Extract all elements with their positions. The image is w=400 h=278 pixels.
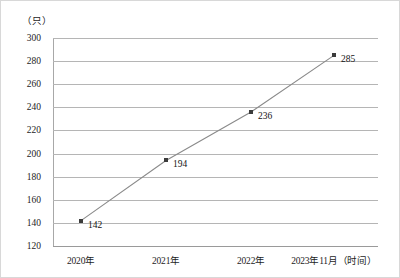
gridline [53, 130, 378, 131]
gridline [53, 246, 378, 247]
y-axis-tick-label: 300 [7, 33, 41, 43]
y-axis-tick-label: 240 [7, 102, 41, 112]
data-point-marker [79, 219, 83, 223]
data-point-label: 142 [88, 220, 102, 230]
y-axis-tick-label: 260 [7, 79, 41, 89]
x-axis-tick-label: 2022年 [237, 253, 265, 267]
gridline [53, 61, 378, 62]
y-axis-tick-label: 120 [7, 241, 41, 251]
gridline [53, 107, 378, 108]
data-point-marker [164, 158, 168, 162]
series-line-svg [1, 1, 400, 278]
gridline [53, 38, 378, 39]
x-axis-tick-label: 2021年 [152, 253, 180, 267]
gridline [53, 84, 378, 85]
data-point-label: 236 [258, 111, 272, 121]
y-axis-tick-label: 140 [7, 218, 41, 228]
data-point-marker [332, 53, 336, 57]
y-axis-tick-label: 280 [7, 56, 41, 66]
y-axis-tick-label: 160 [7, 195, 41, 205]
y-axis-unit-caption: （只） [22, 13, 51, 27]
data-point-label: 194 [173, 159, 187, 169]
gridline [53, 177, 378, 178]
data-point-marker [249, 110, 253, 114]
y-axis-tick-label: 220 [7, 125, 41, 135]
gridline [53, 200, 378, 201]
x-axis-tick-label: 2023年11月（时间） [291, 253, 377, 267]
y-axis-tick-label: 180 [7, 172, 41, 182]
y-axis-tick-label: 200 [7, 149, 41, 159]
data-point-label: 285 [341, 54, 355, 64]
x-axis-tick-label: 2020年 [67, 253, 95, 267]
line-chart: （只） 300280260240220200180160140120 2020年… [0, 0, 400, 278]
gridline [53, 154, 378, 155]
y-axis-line [53, 38, 54, 247]
